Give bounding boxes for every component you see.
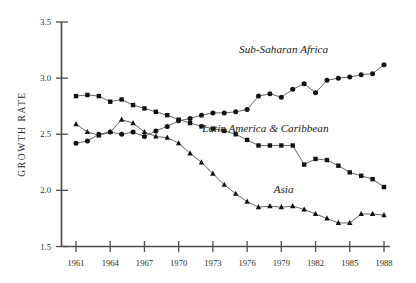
x-tick-label: 1985 bbox=[341, 258, 358, 268]
data-point-square bbox=[154, 110, 158, 114]
growth-rate-line-chart: 1.52.02.53.03.5 196119641967197019731976… bbox=[0, 0, 416, 283]
data-point-circle bbox=[245, 107, 250, 112]
data-point-square bbox=[325, 158, 329, 162]
series-annotation-label: Asia bbox=[273, 183, 294, 195]
data-point-square bbox=[256, 143, 260, 147]
series-annotation-label: Latin America & Caribbean bbox=[201, 122, 329, 134]
data-point-circle bbox=[222, 110, 227, 115]
data-point-square bbox=[142, 106, 146, 110]
data-point-circle bbox=[233, 109, 238, 114]
data-point-circle bbox=[74, 141, 79, 146]
x-tick-label: 1979 bbox=[273, 258, 290, 268]
data-point-circle bbox=[210, 110, 215, 115]
y-tick-label: 2.5 bbox=[40, 129, 51, 139]
data-point-square bbox=[370, 177, 374, 181]
data-point-square bbox=[74, 94, 78, 98]
x-tick-label: 1982 bbox=[307, 258, 324, 268]
x-tick-label: 1988 bbox=[375, 258, 392, 268]
data-point-circle bbox=[370, 71, 375, 76]
data-point-square bbox=[131, 103, 135, 107]
x-tick-label: 1961 bbox=[67, 258, 84, 268]
data-point-square bbox=[359, 174, 363, 178]
data-point-circle bbox=[85, 138, 90, 143]
data-point-square bbox=[279, 143, 283, 147]
x-tick-label: 1967 bbox=[136, 258, 154, 268]
x-tick-label: 1964 bbox=[102, 258, 120, 268]
data-point-circle bbox=[131, 130, 136, 135]
data-point-circle bbox=[290, 87, 295, 92]
data-point-square bbox=[291, 143, 295, 147]
y-tick-label: 3.0 bbox=[40, 73, 51, 83]
data-point-circle bbox=[347, 75, 352, 80]
x-tick-label: 1973 bbox=[204, 258, 221, 268]
data-point-square bbox=[268, 143, 272, 147]
data-point-circle bbox=[336, 76, 341, 81]
data-point-circle bbox=[153, 128, 158, 133]
data-point-circle bbox=[256, 94, 261, 99]
chart-page: 1.52.02.53.03.5 196119641967197019731976… bbox=[0, 0, 416, 283]
data-point-circle bbox=[313, 90, 318, 95]
y-tick-label: 3.5 bbox=[40, 17, 51, 27]
data-point-square bbox=[302, 162, 306, 166]
data-point-circle bbox=[199, 113, 204, 118]
data-point-circle bbox=[142, 134, 147, 139]
data-point-circle bbox=[382, 62, 387, 67]
data-point-square bbox=[245, 138, 249, 142]
data-point-square bbox=[188, 121, 192, 125]
series-annotation-label: Sub-Saharan Africa bbox=[239, 43, 328, 55]
data-point-square bbox=[382, 185, 386, 189]
data-point-circle bbox=[188, 116, 193, 121]
data-point-circle bbox=[119, 132, 124, 137]
data-point-square bbox=[108, 99, 112, 103]
data-point-square bbox=[176, 117, 180, 121]
data-point-circle bbox=[165, 124, 170, 129]
data-point-circle bbox=[267, 91, 272, 96]
data-point-square bbox=[97, 94, 101, 98]
data-point-square bbox=[313, 157, 317, 161]
data-point-square bbox=[85, 93, 89, 97]
data-point-square bbox=[348, 170, 352, 174]
data-point-square bbox=[119, 97, 123, 101]
data-point-circle bbox=[324, 78, 329, 83]
data-point-circle bbox=[359, 72, 364, 77]
x-tick-label: 1970 bbox=[170, 258, 187, 268]
y-tick-label: 2.0 bbox=[40, 185, 51, 195]
data-point-square bbox=[336, 163, 340, 167]
x-tick-label: 1976 bbox=[239, 258, 257, 268]
y-axis-title: GROWTH RATE bbox=[17, 91, 27, 176]
chart-background bbox=[0, 0, 416, 283]
y-tick-label: 1.5 bbox=[40, 242, 51, 252]
data-point-square bbox=[165, 113, 169, 117]
data-point-circle bbox=[279, 95, 284, 100]
data-point-circle bbox=[302, 81, 307, 86]
